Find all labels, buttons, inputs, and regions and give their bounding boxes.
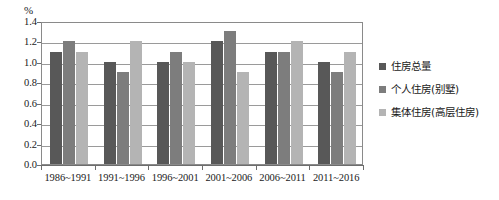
x-axis-tick-mark: [309, 165, 310, 170]
bar: [157, 62, 169, 164]
bar: [265, 52, 277, 164]
x-axis-tick-mark: [256, 165, 257, 170]
y-axis-unit-label: %: [24, 5, 33, 16]
y-axis-tick-label: 1.4: [24, 17, 37, 28]
gridline: [42, 84, 362, 85]
legend-label: 个人住房(别墅): [391, 83, 459, 95]
bar: [224, 31, 236, 164]
x-axis-tick-label: 2011~2016: [313, 172, 359, 184]
gridline: [42, 105, 362, 106]
bar: [170, 52, 182, 164]
legend-swatch-icon: [379, 86, 386, 93]
bar-group: [265, 23, 303, 164]
bar: [63, 41, 75, 164]
bar: [344, 52, 356, 164]
bar-group: [318, 23, 356, 164]
legend-item[interactable]: 集体住房(高层住房): [379, 106, 499, 118]
bar: [331, 72, 343, 164]
y-axis-tick-label: 1.0: [24, 58, 37, 69]
legend-item[interactable]: 住房总量: [379, 60, 499, 72]
legend-swatch-icon: [379, 109, 386, 116]
bar: [104, 62, 116, 164]
x-axis-tick-label: 1991~1996: [98, 172, 145, 184]
legend-label: 住房总量: [391, 60, 431, 72]
x-axis-tick-mark: [363, 165, 364, 170]
legend-label: 集体住房(高层住房): [391, 106, 479, 118]
y-axis-tick-label: 0.2: [24, 139, 37, 150]
legend-swatch-icon: [379, 63, 386, 70]
x-axis-tick-mark: [41, 165, 42, 170]
bar-chart: % 0.00.20.40.60.81.01.21.4 1986~19911991…: [0, 0, 499, 200]
bar: [237, 72, 249, 164]
x-axis-tick-mark: [202, 165, 203, 170]
x-axis-tick-label: 2006~2011: [259, 172, 305, 184]
gridline: [42, 64, 362, 65]
plot-frame: [41, 22, 363, 165]
bar: [318, 62, 330, 164]
legend-item[interactable]: 个人住房(别墅): [379, 83, 499, 95]
bar-group: [157, 23, 195, 164]
x-axis-tick-label: 2001~2006: [205, 172, 252, 184]
plot-area: [42, 23, 362, 164]
x-axis-tick-mark: [148, 165, 149, 170]
bar: [291, 41, 303, 164]
bar: [211, 41, 223, 164]
bar: [76, 52, 88, 164]
gridline: [42, 43, 362, 44]
chart-legend: 住房总量个人住房(别墅)集体住房(高层住房): [379, 60, 499, 129]
gridline: [42, 125, 362, 126]
gridline: [42, 146, 362, 147]
x-axis-tick-mark: [95, 165, 96, 170]
bar: [117, 72, 129, 164]
bar: [278, 52, 290, 164]
bar-group: [104, 23, 142, 164]
bar-group: [211, 23, 249, 164]
bar-group: [50, 23, 88, 164]
y-axis-tick-label: 1.2: [24, 37, 37, 48]
y-axis-tick-labels: 0.00.20.40.60.81.01.21.4: [0, 22, 37, 165]
bar: [130, 41, 142, 164]
x-axis-tick-label: 1996~2001: [152, 172, 199, 184]
x-axis-tick-label: 1986~1991: [44, 172, 91, 184]
y-axis-tick-label: 0.6: [24, 98, 37, 109]
y-axis-tick-label: 0.4: [24, 119, 37, 130]
bar: [50, 52, 62, 164]
y-axis-tick-label: 0.8: [24, 78, 37, 89]
y-axis-tick-label: 0.0: [24, 160, 37, 171]
bar: [183, 62, 195, 164]
